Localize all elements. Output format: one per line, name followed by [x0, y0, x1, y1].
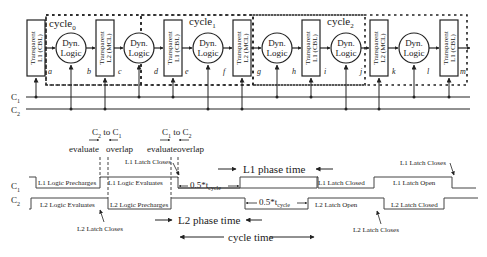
cycle-time-label: cycle time: [228, 231, 274, 243]
cycle-label-1: cycle1: [189, 15, 216, 30]
l2-latch-closes-label-1: L2 Latch Closes: [77, 225, 123, 233]
overlap-label-2: overlap: [177, 144, 204, 154]
timing-c1-label: C1: [11, 181, 20, 193]
dyn-logic-3: Dyn. Logic: [262, 33, 292, 63]
c1-seg-latch-closed: L1 Latch Closed: [318, 179, 365, 187]
svg-text:L1 (CBL): L1 (CBL): [449, 33, 457, 61]
svg-text:Logic: Logic: [404, 48, 425, 58]
c1-seg-evaluates: L1 Logic Evaluates: [108, 179, 163, 187]
half-cycle-dim-c2: 0.5*tcycle: [246, 197, 307, 208]
evaluate-label-1: evaluate: [69, 144, 99, 154]
l2-latch-closes-label-2: L2 Latch Closes: [353, 226, 399, 234]
latch-5: Transparent L2 (MCL): [370, 20, 388, 76]
svg-text:0.5*tcycle: 0.5*tcycle: [259, 197, 290, 208]
svg-text:Dyn.: Dyn.: [268, 38, 286, 48]
clock-c1-label: C1: [11, 92, 20, 104]
svg-text:m: m: [460, 67, 466, 76]
svg-text:a: a: [48, 67, 52, 76]
svg-text:Logic: Logic: [198, 48, 219, 58]
latch-1: Transparent L2 (MCL): [96, 20, 114, 76]
dyn-logic-4: Dyn. Logic: [331, 33, 361, 63]
l2-phase-label: L2 phase time: [178, 214, 240, 226]
svg-text:Logic: Logic: [267, 48, 288, 58]
latch-pipeline-timing-diagram: cycle0 cycle1 cycle2 C1 C2 Transparent L…: [0, 0, 487, 257]
svg-text:f: f: [223, 67, 227, 76]
svg-text:Dyn.: Dyn.: [130, 38, 148, 48]
svg-text:Logic: Logic: [61, 48, 82, 58]
svg-text:j: j: [359, 67, 363, 76]
svg-text:l: l: [427, 67, 430, 76]
c2-seg-evaluates: L2 Logic Evaluates: [40, 201, 95, 209]
dyn-logic-5: Dyn. Logic: [399, 33, 429, 63]
latch-4: Transparent L1 (CBL): [302, 20, 320, 76]
svg-text:e: e: [185, 67, 189, 76]
cycle-label-2: cycle2: [327, 15, 354, 30]
overlap-c1-c2-title: C1 to C2: [162, 127, 192, 139]
svg-text:k: k: [392, 67, 396, 76]
svg-text:Dyn.: Dyn.: [62, 38, 80, 48]
l1-phase-label: L1 phase time: [243, 163, 305, 175]
svg-text:Dyn.: Dyn.: [199, 38, 217, 48]
clock-c2-label: C2: [11, 105, 20, 117]
latch-0: Transparent L1 (CBL): [27, 20, 45, 76]
latch-6: Transparent L1 (CBL): [440, 20, 458, 76]
half-cycle-dim-c1: 0.5*tcycle: [179, 180, 239, 191]
cycle-label-0: cycle0: [49, 17, 76, 32]
overlap-c2-c1-title: C2 to C1: [92, 127, 122, 139]
svg-text:L1 (CBL): L1 (CBL): [173, 33, 181, 61]
svg-text:h: h: [292, 67, 296, 76]
svg-text:Dyn.: Dyn.: [337, 38, 355, 48]
svg-text:b: b: [87, 67, 91, 76]
latch-3: Transparent L2 (MCL): [233, 20, 251, 76]
c2-seg-latch-open: L2 Latch Open: [315, 201, 358, 209]
l1-latch-closes-label-2: L1 Latch Closes: [400, 159, 446, 167]
dyn-logic-0: Dyn. Logic: [56, 33, 86, 63]
c2-seg-precharges: L2 Logic Precharges: [110, 201, 168, 209]
svg-text:0.5*tcycle: 0.5*tcycle: [190, 180, 221, 191]
svg-text:L1 (CBL): L1 (CBL): [311, 33, 319, 61]
svg-text:L2 (MCL): L2 (MCL): [242, 33, 250, 63]
c1-seg-latch-open: L1 Latch Open: [393, 179, 436, 187]
svg-text:c: c: [118, 67, 122, 76]
dyn-logic-1: Dyn. Logic: [124, 33, 154, 63]
svg-text:L2 (MCL): L2 (MCL): [379, 33, 387, 63]
latch-2: Transparent L1 (CBL): [164, 20, 182, 76]
svg-text:L2 (MCL): L2 (MCL): [105, 33, 113, 63]
svg-text:g: g: [257, 67, 261, 76]
dyn-logic-2: Dyn. Logic: [193, 33, 223, 63]
svg-text:Logic: Logic: [336, 48, 357, 58]
c2-seg-latch-closed: L2 Latch Closed: [391, 201, 438, 209]
svg-text:L1 (CBL): L1 (CBL): [36, 33, 44, 61]
svg-text:i: i: [324, 67, 326, 76]
timing-c2-label: C2: [11, 195, 20, 207]
svg-text:d: d: [154, 67, 159, 76]
c1-seg-precharges: L1 Logic Precharges: [38, 179, 96, 187]
overlap-label-1: overlap: [106, 144, 133, 154]
evaluate-label-2: evaluate: [147, 144, 177, 154]
svg-text:Dyn.: Dyn.: [405, 38, 423, 48]
svg-text:Logic: Logic: [129, 48, 150, 58]
l1-latch-closes-label-1: L1 Latch Closes: [125, 158, 171, 166]
